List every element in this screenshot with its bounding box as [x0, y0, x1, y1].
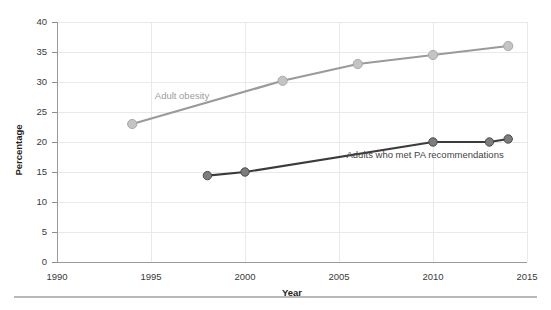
data-point [203, 171, 211, 179]
data-point [429, 138, 437, 146]
x-tick-label-1995: 1995 [140, 271, 161, 282]
y-tick-labels: 40 35 30 25 20 15 10 5 0 [36, 16, 47, 267]
footer-divider [14, 296, 537, 298]
y-tick-label-10: 10 [36, 196, 47, 207]
x-tick-label-2015: 2015 [516, 271, 537, 282]
series-label-adults-met-pa: Adults who met PA recommendations [347, 149, 504, 160]
x-tick-labels: 1990 1995 2000 2005 2010 2015 [46, 271, 537, 282]
y-tick-label-30: 30 [36, 76, 47, 87]
series-adult-obesity [128, 41, 513, 128]
horizontal-gridlines [57, 22, 527, 232]
data-point [504, 41, 513, 50]
data-point [128, 119, 137, 128]
line-chart: 40 35 30 25 20 15 10 5 0 1990 1995 2000 … [0, 0, 551, 310]
x-tick-label-1990: 1990 [46, 271, 67, 282]
data-point [278, 76, 287, 85]
series-markers-obesity [128, 41, 513, 128]
y-axis-title: Percentage [13, 124, 24, 175]
x-tick-label-2010: 2010 [422, 271, 443, 282]
data-point [428, 50, 437, 59]
data-point [353, 59, 362, 68]
chart-figure: 40 35 30 25 20 15 10 5 0 1990 1995 2000 … [0, 0, 551, 310]
y-tick-label-40: 40 [36, 16, 47, 27]
y-tick-label-15: 15 [36, 166, 47, 177]
x-tick-label-2005: 2005 [328, 271, 349, 282]
x-tick-label-2000: 2000 [234, 271, 255, 282]
data-point [504, 135, 512, 143]
y-tick-label-0: 0 [42, 256, 47, 267]
y-tick-label-20: 20 [36, 136, 47, 147]
y-tick-label-5: 5 [42, 226, 47, 237]
data-point [485, 138, 493, 146]
y-tick-label-25: 25 [36, 106, 47, 117]
y-tick-label-35: 35 [36, 46, 47, 57]
data-point [241, 168, 249, 176]
y-tick-marks [52, 22, 57, 262]
series-label-adult-obesity: Adult obesity [155, 90, 210, 101]
